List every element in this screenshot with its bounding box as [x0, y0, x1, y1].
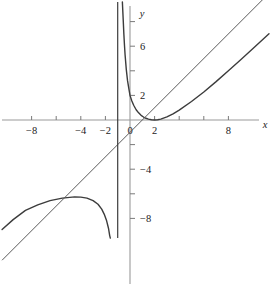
curve-left-branch: [2, 197, 110, 238]
x-axis-tick-label: 2: [152, 125, 157, 136]
y-axis-tick-label: 6: [140, 41, 145, 52]
function-plot: −8−4−202862−4−8xy: [0, 0, 279, 288]
x-axis-tick-label: −8: [26, 125, 37, 136]
slant-asymptote-line: [2, 0, 271, 260]
x-axis-label: x: [262, 119, 268, 130]
y-axis-tick-label: −8: [140, 213, 151, 224]
x-axis-tick-label: 8: [226, 125, 231, 136]
y-axis-tick-label: 2: [140, 90, 145, 101]
curve-right-branch: [122, 2, 269, 120]
graph-figure: −8−4−202862−4−8xy: [0, 0, 279, 288]
x-axis-tick-label: −2: [100, 125, 111, 136]
y-axis-label: y: [139, 8, 145, 19]
y-axis-tick-label: −4: [140, 164, 152, 175]
x-axis-tick-label: −4: [75, 125, 87, 136]
